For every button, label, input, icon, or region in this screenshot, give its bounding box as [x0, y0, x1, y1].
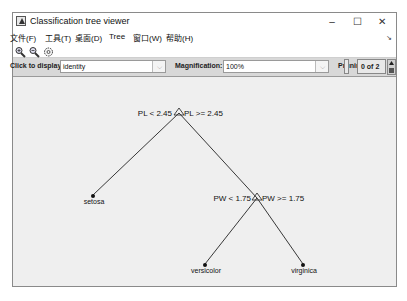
- click-to-display-select[interactable]: identity ⌵: [60, 60, 166, 73]
- node2-left-rule: PW < 1.75: [213, 194, 251, 203]
- pruning-level-value: 0 of 2: [361, 63, 379, 70]
- chevron-down-icon[interactable]: ⌵: [152, 61, 165, 72]
- minimize-button[interactable]: –: [321, 15, 343, 29]
- edge-node2-virginica: [257, 198, 303, 264]
- menu-tree[interactable]: Tree: [109, 32, 125, 41]
- title-bar: Classification tree viewer – ☐ ✕: [13, 13, 396, 31]
- edge-node2-versicolor: [205, 198, 257, 264]
- pruning-level-spinner[interactable]: [387, 59, 396, 75]
- zoom-out-icon[interactable]: [29, 44, 40, 56]
- magnification-label: Magnification:: [175, 62, 222, 69]
- pruning-level-display: 0 of 2: [357, 59, 386, 74]
- edge-root-setosa: [93, 113, 179, 195]
- close-button[interactable]: ✕: [371, 15, 393, 29]
- menu-desktop[interactable]: 桌面(D): [75, 32, 102, 43]
- tree-canvas[interactable]: PL < 2.45 PL >= 2.45 PW < 1.75 PW >= 1.7…: [13, 77, 396, 286]
- edge-root-node2: [179, 113, 257, 198]
- pan-hand-icon[interactable]: [43, 44, 54, 56]
- menu-tools[interactable]: 工具(T): [45, 32, 71, 43]
- menu-bar: 文件(F) 工具(T) 桌面(D) Tree 窗口(W) 帮助(H) ↘: [13, 31, 396, 44]
- controls-bar: Click to display: identity ⌵ Magnificati…: [13, 58, 396, 77]
- magnification-value: 100%: [226, 63, 244, 70]
- leaf-label-setosa: setosa: [84, 198, 105, 205]
- node2-right-rule: PW >= 1.75: [262, 194, 305, 203]
- maximize-button[interactable]: ☐: [346, 15, 368, 29]
- click-to-display-value: identity: [63, 63, 85, 70]
- menu-window[interactable]: 窗口(W): [133, 32, 162, 43]
- window-title: Classification tree viewer: [30, 16, 130, 26]
- spacer: [344, 59, 349, 74]
- click-to-display-label: Click to display:: [10, 62, 64, 69]
- root-left-rule: PL < 2.45: [138, 109, 173, 118]
- magnification-select[interactable]: 100% ⌵: [223, 60, 329, 73]
- leaf-label-virginica: virginica: [291, 267, 317, 275]
- toolbar: [13, 44, 396, 58]
- branch-node-triangle-icon[interactable]: [174, 108, 184, 115]
- matlab-app-icon: [16, 16, 26, 26]
- menu-help[interactable]: 帮助(H): [166, 32, 193, 43]
- menu-file[interactable]: 文件(F): [10, 32, 36, 43]
- tree-diagram: PL < 2.45 PL >= 2.45 PW < 1.75 PW >= 1.7…: [13, 77, 398, 288]
- menu-overflow-icon[interactable]: ↘: [386, 34, 392, 42]
- root-right-rule: PL >= 2.45: [184, 109, 223, 118]
- zoom-in-icon[interactable]: [15, 44, 26, 56]
- leaf-label-versicolor: versicolor: [191, 267, 222, 274]
- chevron-down-icon[interactable]: ⌵: [315, 61, 328, 72]
- tree-viewer-window: Classification tree viewer – ☐ ✕ 文件(F) 工…: [12, 12, 397, 287]
